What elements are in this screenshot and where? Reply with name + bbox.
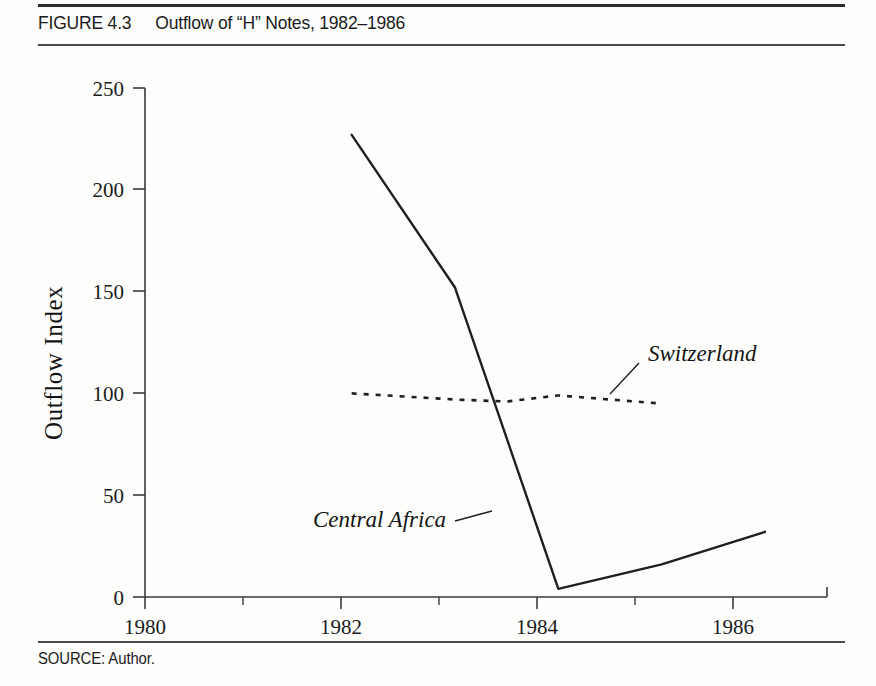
y-tick-label-150: 150 bbox=[93, 280, 125, 304]
series-line-switzerland bbox=[352, 393, 662, 403]
x-axis-ticks bbox=[145, 597, 733, 609]
y-axis-tick-labels: 250 200 150 100 50 0 bbox=[93, 77, 125, 610]
x-axis-tick-labels: 1980 1982 1984 1986 bbox=[124, 615, 754, 639]
line-chart: 250 200 150 100 50 0 1980 1982 1984 1986… bbox=[0, 0, 876, 686]
x-tick-label-1982: 1982 bbox=[320, 615, 362, 639]
y-axis-ticks bbox=[133, 88, 145, 597]
y-tick-label-250: 250 bbox=[93, 77, 125, 101]
y-axis-title: Outflow Index bbox=[40, 286, 67, 440]
source-note: SOURCE: Author. bbox=[38, 650, 155, 668]
y-tick-label-200: 200 bbox=[93, 178, 125, 202]
central-africa-leader-line bbox=[455, 511, 492, 521]
y-tick-label-0: 0 bbox=[114, 586, 125, 610]
y-tick-label-100: 100 bbox=[93, 382, 125, 406]
figure-container: FIGURE 4.3Outflow of “H” Notes, 1982–198… bbox=[0, 0, 876, 686]
series-label-central-africa: Central Africa bbox=[313, 507, 446, 532]
switzerland-leader-line bbox=[610, 363, 639, 394]
x-tick-label-1980: 1980 bbox=[124, 615, 166, 639]
x-tick-label-1984: 1984 bbox=[516, 615, 559, 639]
series-label-switzerland: Switzerland bbox=[648, 341, 757, 366]
x-tick-label-1986: 1986 bbox=[712, 615, 754, 639]
y-tick-label-50: 50 bbox=[103, 484, 124, 508]
source-rule bbox=[38, 641, 845, 643]
